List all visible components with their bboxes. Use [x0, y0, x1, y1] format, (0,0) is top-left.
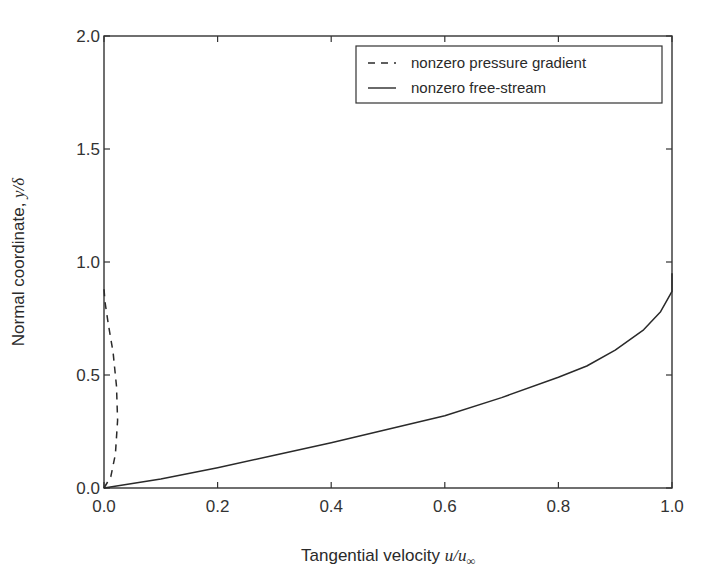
y-tick-label: 0.0	[76, 479, 100, 498]
y-axis-label: Normal coordinate, y/δ	[9, 177, 28, 347]
legend-label-free-stream: nonzero free-stream	[411, 79, 546, 96]
x-tick-label: 0.6	[433, 497, 457, 516]
x-tick-label: 0.4	[319, 497, 343, 516]
x-axis-label-sub: ∞	[466, 554, 475, 568]
legend: nonzero pressure gradient nonzero free-s…	[356, 46, 662, 103]
y-axis-label-math: y/δ	[9, 177, 28, 200]
x-tick-label: 0.0	[92, 497, 116, 516]
y-tick-label: 2.0	[76, 27, 100, 46]
x-tick-label: 1.0	[660, 497, 684, 516]
y-tick-label: 1.0	[76, 253, 100, 272]
x-axis-label: Tangential velocity u/u∞	[301, 546, 475, 568]
y-tick-label: 1.5	[76, 140, 100, 159]
y-tick-label: 0.5	[76, 366, 100, 385]
y-axis-label-text: Normal coordinate,	[9, 198, 28, 346]
legend-label-pressure-gradient: nonzero pressure gradient	[411, 54, 587, 71]
x-axis-label-math: u/u	[445, 546, 467, 565]
x-tick-label: 0.8	[547, 497, 571, 516]
chart: 0.00.20.40.60.81.00.00.51.01.52.0 Tangen…	[0, 0, 720, 579]
x-tick-label: 0.2	[206, 497, 230, 516]
x-axis-label-text: Tangential velocity	[301, 546, 445, 565]
